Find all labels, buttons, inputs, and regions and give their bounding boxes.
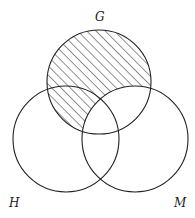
label-g: G — [95, 10, 105, 24]
label-h: H — [8, 196, 20, 210]
venn-diagram: G H M — [0, 0, 195, 218]
shaded-region-g-minus-m — [0, 0, 195, 218]
label-m: M — [173, 196, 187, 210]
